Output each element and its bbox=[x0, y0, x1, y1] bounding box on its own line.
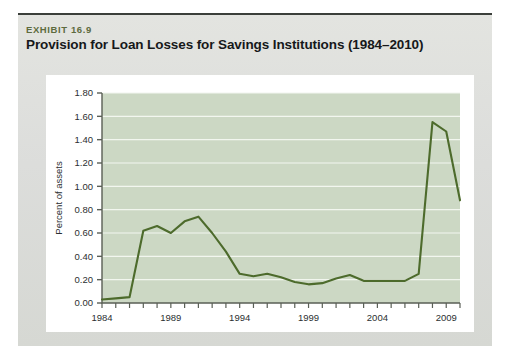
x-tick-label: 2004 bbox=[367, 312, 388, 323]
y-tick-label: 0.40 bbox=[75, 251, 94, 262]
x-axis-ticks bbox=[102, 303, 460, 308]
chart-card: 0.000.200.400.600.801.001.201.401.601.80… bbox=[46, 75, 474, 332]
plot-area-background bbox=[102, 93, 460, 303]
y-tick-label: 0.20 bbox=[75, 274, 94, 285]
x-tick-label: 1989 bbox=[160, 312, 181, 323]
x-tick-label: 1999 bbox=[298, 312, 319, 323]
x-tick-label: 2009 bbox=[436, 312, 457, 323]
y-axis-tick-labels: 0.000.200.400.600.801.001.201.401.601.80 bbox=[75, 87, 94, 308]
x-axis-tick-labels: 198419891994199920042009 bbox=[91, 312, 456, 323]
y-tick-label: 1.60 bbox=[75, 111, 94, 122]
y-tick-label: 1.00 bbox=[75, 181, 94, 192]
x-tick-label: 1984 bbox=[91, 312, 112, 323]
y-axis-title: Percent of assets bbox=[53, 161, 64, 235]
y-tick-label: 1.80 bbox=[75, 87, 94, 98]
exhibit-title: Provision for Loan Losses for Savings In… bbox=[26, 37, 484, 53]
line-chart: 0.000.200.400.600.801.001.201.401.601.80… bbox=[46, 75, 474, 332]
y-axis-ticks bbox=[97, 93, 102, 303]
y-tick-label: 0.00 bbox=[75, 297, 94, 308]
exhibit-figure: EXHIBIT 16.9 Provision for Loan Losses f… bbox=[0, 0, 510, 357]
exhibit-number-label: EXHIBIT 16.9 bbox=[26, 24, 484, 36]
x-tick-label: 1994 bbox=[229, 312, 250, 323]
exhibit-panel: EXHIBIT 16.9 Provision for Loan Losses f… bbox=[18, 13, 492, 346]
y-tick-label: 1.40 bbox=[75, 134, 94, 145]
y-tick-label: 0.60 bbox=[75, 227, 94, 238]
y-tick-label: 0.80 bbox=[75, 204, 94, 215]
y-tick-label: 1.20 bbox=[75, 157, 94, 168]
exhibit-header: EXHIBIT 16.9 Provision for Loan Losses f… bbox=[26, 24, 484, 53]
